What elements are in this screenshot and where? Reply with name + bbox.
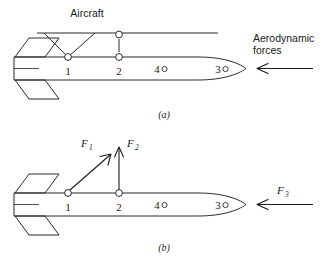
node-aircraft-attach — [116, 31, 123, 38]
point-label-1-a: 1 — [65, 65, 71, 77]
point-marker-3-b — [223, 202, 228, 207]
node-point-1-a — [65, 54, 72, 61]
force-label-F2: F — [126, 137, 134, 149]
panel-a-caption: (a) — [158, 109, 170, 121]
figure-page: Aircraft Aerodynamic forces 1 2 4 3 (a) — [0, 0, 332, 257]
point-marker-4-a — [162, 66, 167, 71]
point-marker-3-a — [223, 66, 228, 71]
force-label-F3-subscript: 3 — [284, 190, 289, 199]
panel-b-caption: (b) — [158, 242, 170, 254]
fin-upper-b — [15, 174, 59, 193]
force-label-F2-subscript: 2 — [135, 143, 139, 152]
point-label-4-b: 4 — [154, 199, 160, 211]
aerodynamic-forces-label-line2: forces — [253, 44, 282, 56]
missile-body-outline-b — [14, 193, 246, 216]
point-label-3-a: 3 — [215, 63, 221, 75]
force-F1-arrow-shaft — [70, 155, 110, 190]
node-point-2-b — [116, 190, 123, 197]
panel-a-diagram: Aircraft Aerodynamic forces 1 2 4 3 (a) — [0, 0, 332, 130]
node-point-1-b — [65, 190, 72, 197]
aerodynamic-forces-label-line1: Aerodynamic — [253, 32, 314, 44]
fin-lower-b — [15, 216, 59, 235]
missile-body-outline-a — [14, 57, 246, 80]
point-label-2-a: 2 — [116, 65, 122, 77]
sling-line-right — [68, 33, 95, 57]
panel-b-diagram: F 1 F 2 F 3 1 2 4 3 (b) — [0, 125, 332, 257]
point-label-4-a: 4 — [154, 63, 160, 75]
fin-lower-a — [15, 80, 59, 99]
force-label-F1: F — [80, 137, 88, 149]
force-label-F3: F — [276, 184, 284, 196]
point-marker-4-b — [162, 202, 167, 207]
force-label-F1-subscript: 1 — [89, 143, 93, 152]
node-point-2-a — [116, 54, 123, 61]
aircraft-label: Aircraft — [70, 7, 103, 19]
point-label-2-b: 2 — [116, 201, 122, 213]
point-label-1-b: 1 — [65, 201, 71, 213]
point-label-3-b: 3 — [215, 199, 221, 211]
